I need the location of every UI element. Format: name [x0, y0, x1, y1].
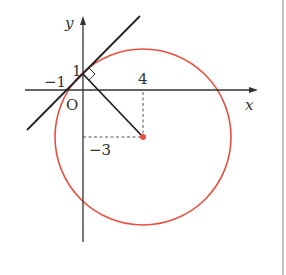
origin-label: O	[66, 96, 78, 114]
coordinate-diagram: y x O 1 −1 4 −3	[0, 0, 286, 275]
y-axis-label: y	[64, 14, 74, 32]
right-angle-marker	[89, 68, 95, 80]
x-axis-arrow-icon	[249, 87, 258, 93]
circle-center-dot	[140, 134, 146, 140]
y-intercept-label: 1	[72, 62, 82, 80]
x-axis-label: x	[245, 96, 254, 114]
center-y-label: −3	[89, 141, 111, 159]
x-intercept-label: −1	[44, 73, 66, 91]
y-axis-arrow-icon	[80, 16, 86, 25]
radius-segment	[83, 74, 143, 137]
center-x-label: 4	[138, 70, 148, 88]
